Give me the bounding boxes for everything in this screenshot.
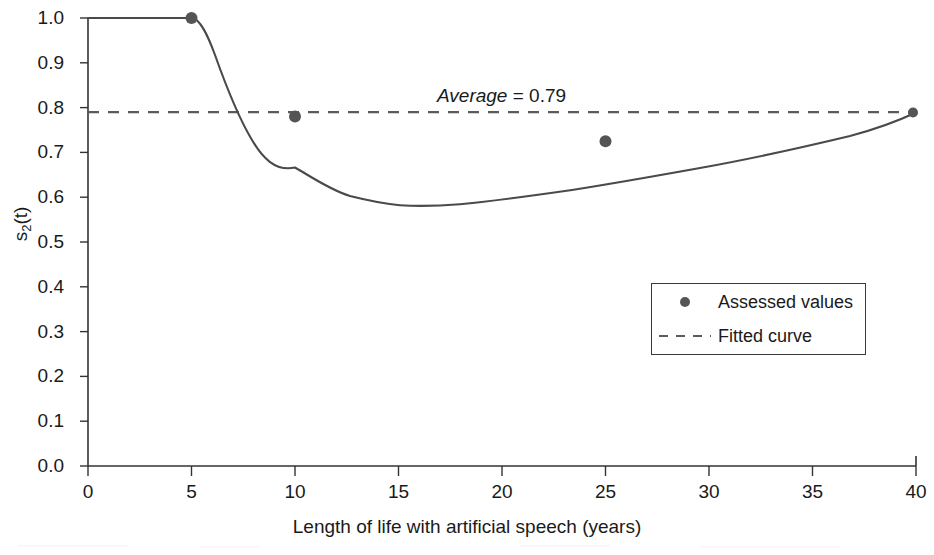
y-tick-label: 0.0 — [10, 456, 64, 475]
x-axis-title: Length of life with artificial speech (y… — [0, 516, 934, 538]
y-axis-title: s2(t) — [10, 179, 32, 269]
x-tick-label: 20 — [472, 482, 532, 501]
y-tick-label: 0.7 — [10, 142, 64, 161]
x-tick-label: 15 — [369, 482, 429, 501]
legend-item-assessed-values: Assessed values — [652, 284, 865, 320]
plot-canvas — [0, 0, 934, 555]
x-tick-label: 30 — [679, 482, 739, 501]
average-annotation: Average = 0.79 — [437, 85, 566, 107]
x-tick-label: 35 — [783, 482, 843, 501]
chart-legend: Assessed values Fitted curve — [651, 283, 866, 355]
y-axis-ticks — [80, 18, 88, 466]
x-tick-label: 40 — [886, 482, 934, 501]
data-point — [600, 135, 612, 147]
y-tick-label: 0.3 — [10, 322, 64, 341]
legend-label-assessed-values: Assessed values — [718, 292, 853, 313]
scan-artifact — [520, 545, 610, 547]
data-point — [289, 111, 301, 123]
x-tick-label: 0 — [58, 482, 118, 501]
legend-label-fitted-curve: Fitted curve — [718, 326, 812, 347]
average-annotation-word: Average — [437, 85, 507, 106]
legend-item-fitted-curve: Fitted curve — [652, 318, 865, 354]
y-tick-label: 0.9 — [10, 53, 64, 72]
x-tick-label: 5 — [162, 482, 222, 501]
data-point — [908, 108, 918, 118]
scan-artifact — [18, 545, 128, 547]
legend-dot-icon — [652, 284, 718, 320]
y-tick-label: 0.1 — [10, 411, 64, 430]
y-axis-title-base: s — [10, 232, 31, 242]
chart-figure: 1.0 0.9 0.8 0.7 0.6 0.5 0.4 0.3 0.2 0.1 … — [0, 0, 934, 555]
scan-artifact — [700, 546, 840, 548]
y-tick-label: 0.4 — [10, 277, 64, 296]
y-tick-label: 0.8 — [10, 98, 64, 117]
y-tick-label: 1.0 — [10, 8, 64, 27]
assessed-value-markers — [186, 12, 919, 147]
x-tick-label: 10 — [265, 482, 325, 501]
data-point — [186, 12, 198, 24]
legend-dashed-line-icon — [652, 318, 718, 354]
y-tick-label: 0.2 — [10, 366, 64, 385]
scan-artifact — [200, 546, 260, 548]
y-axis-title-subscript: 2 — [19, 225, 34, 232]
x-tick-label: 25 — [576, 482, 636, 501]
average-annotation-value: = 0.79 — [507, 85, 566, 106]
x-axis-ticks — [88, 466, 916, 476]
y-axis-title-tail: (t) — [10, 207, 31, 225]
